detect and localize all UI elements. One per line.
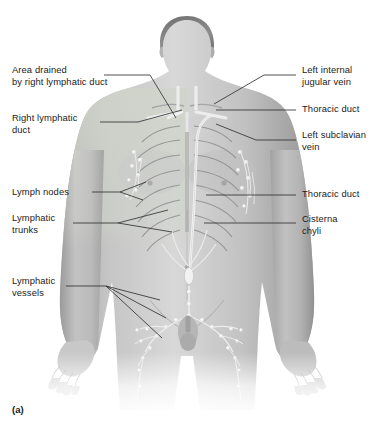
label-lymphatic-vessels: Lymphatic vessels (12, 275, 55, 298)
label-lymph-nodes: Lymph nodes (12, 186, 69, 198)
label-cisterna-chyli: Cisterna chyli (302, 213, 338, 236)
figure-caption: (a) (12, 404, 24, 415)
label-left-subclavian-vein: Left subclavian vein (302, 129, 366, 152)
label-thoracic-duct-upper: Thoracic duct (302, 103, 360, 115)
label-thoracic-duct-lower: Thoracic duct (302, 188, 360, 200)
label-area-drained-by-right-lymphatic-duct: Area drained by right lymphatic duct (12, 64, 107, 87)
label-lymphatic-trunks: Lymphatic trunks (12, 212, 55, 235)
label-left-internal-jugular-vein: Left internal jugular vein (302, 64, 352, 87)
bottom-fade (0, 352, 374, 414)
label-right-lymphatic-duct: Right lymphatic duct (12, 112, 78, 135)
